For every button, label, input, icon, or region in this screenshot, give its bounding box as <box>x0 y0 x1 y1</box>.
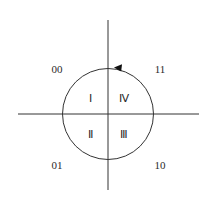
corner-label-bottom-right: 10 <box>155 159 167 171</box>
corner-label-top-right: 11 <box>155 63 166 75</box>
corner-label-top-left: 00 <box>52 63 64 75</box>
quadrant-label-1: Ⅰ <box>89 92 92 104</box>
corner-label-bottom-left: 01 <box>52 159 63 171</box>
quadrant-label-2: Ⅱ <box>88 128 93 140</box>
quadrant-diagram: 00 11 01 10 Ⅰ Ⅳ Ⅱ Ⅲ <box>0 0 209 199</box>
quadrant-label-3: Ⅲ <box>120 128 128 140</box>
quadrant-label-4: Ⅳ <box>119 92 130 104</box>
direction-arrow-icon <box>114 64 122 71</box>
